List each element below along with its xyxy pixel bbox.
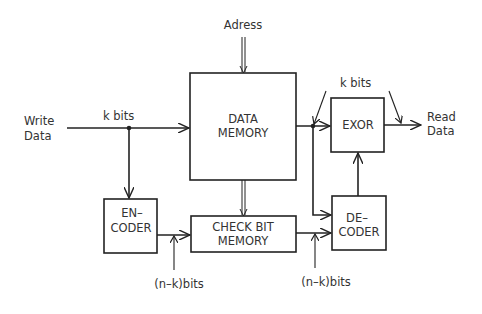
- read-data-label: Data: [427, 124, 454, 138]
- data-memory-label-2: MEMORY: [218, 126, 268, 140]
- read-bits-label: k bits: [340, 76, 371, 90]
- check-bit-memory-label-2: MEMORY: [218, 234, 268, 248]
- encoder-label-2: CODER: [110, 221, 151, 235]
- read-label: Read: [427, 110, 456, 124]
- diagram-canvas: [0, 0, 482, 314]
- write-bits-label: k bits: [103, 109, 134, 123]
- check-bits-out-label: (n–k)bits: [301, 275, 351, 289]
- address-bus-arrow: [240, 37, 247, 73]
- decoder-label-2: CODER: [338, 225, 379, 239]
- data-label: Data: [24, 129, 51, 143]
- exor-out-bits-pointer: [389, 91, 401, 123]
- read-bits-pointer: [314, 91, 326, 124]
- data-memory-label-1: DATA: [228, 112, 258, 126]
- write-label: Write: [24, 114, 54, 128]
- memory-link-arrow: [240, 180, 247, 216]
- encoder-label-1: EN–: [121, 206, 143, 220]
- decoder-label-1: DE–: [346, 211, 368, 225]
- check-bit-memory-label-1: CHECK BIT: [212, 220, 273, 234]
- decoder-data-input-arrow: [313, 126, 331, 215]
- check-bits-in-label: (n–k)bits: [154, 277, 204, 291]
- address-label: Adress: [224, 18, 263, 32]
- exor-label: EXOR: [342, 118, 373, 132]
